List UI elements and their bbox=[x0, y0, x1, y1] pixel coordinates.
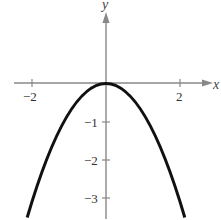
y-tick-label-neg3: −3 bbox=[84, 191, 98, 206]
x-axis-arrow-icon bbox=[202, 80, 213, 87]
x-tick-label-neg2: −2 bbox=[23, 89, 37, 104]
x-tick-label-2: 2 bbox=[176, 89, 183, 104]
y-tick-label-neg2: −2 bbox=[84, 153, 98, 168]
y-tick-label-neg1: −1 bbox=[84, 115, 98, 130]
x-axis-label: x bbox=[212, 77, 220, 92]
y-axis-arrow-icon bbox=[103, 12, 110, 23]
y-axis-label: y bbox=[100, 0, 109, 12]
chart-canvas: x y −2 2 −1 −2 −3 bbox=[0, 0, 221, 220]
